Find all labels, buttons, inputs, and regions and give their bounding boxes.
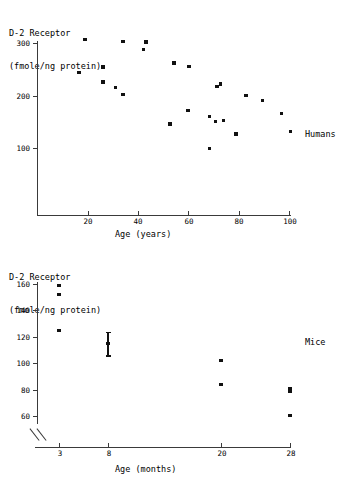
x-tick-60 [188, 211, 189, 215]
y-axis-title-line2: (fmole/ng protein) [9, 61, 101, 72]
group-label-mice: Mice [305, 337, 325, 347]
data-point [234, 132, 237, 135]
group-label-humans: Humans [305, 129, 336, 139]
x-tick-20 [88, 211, 89, 215]
data-point [77, 71, 80, 74]
data-point [101, 80, 104, 83]
y-axis-title-humans: D-2 Receptor (fmole/ng protein) [9, 6, 101, 94]
data-point [106, 342, 109, 345]
x-tick-100 [289, 211, 290, 215]
x-ticklabel-40: 40 [126, 217, 150, 226]
data-point [142, 48, 145, 51]
x-axis-line-mice [35, 447, 291, 448]
y-ticklabel-60: 60 [8, 412, 30, 421]
data-point [114, 86, 117, 89]
data-point [280, 112, 283, 115]
data-point [208, 147, 211, 150]
x-axis-title-humans: Age (years) [115, 229, 171, 239]
data-point [121, 40, 124, 43]
data-point [121, 93, 124, 96]
y-ticklabel-140: 140 [8, 306, 30, 315]
y-tick-300 [33, 43, 37, 44]
y-ticklabel-300: 300 [8, 39, 30, 48]
data-point [186, 109, 189, 112]
x-tick-20 [221, 443, 222, 447]
y-axis-line-mice [37, 282, 38, 424]
y-tick-100 [33, 148, 37, 149]
x-tick-40 [138, 211, 139, 215]
data-point [168, 122, 171, 125]
data-point [144, 40, 147, 43]
y-axis-line-humans [37, 41, 38, 216]
data-point [222, 119, 225, 122]
data-point [219, 383, 222, 386]
x-tick-3 [59, 443, 60, 447]
x-tick-28 [290, 443, 291, 447]
x-ticklabel-60: 60 [177, 217, 201, 226]
x-ticklabel-28: 28 [279, 449, 303, 458]
y-tick-200 [33, 96, 37, 97]
y-ticklabel-100: 100 [8, 144, 30, 153]
error-bar-cap-top [106, 332, 111, 333]
y-axis-title-line1: D-2 Receptor [9, 28, 101, 39]
data-point [57, 293, 60, 296]
y-tick-120 [33, 337, 37, 338]
y-tick-100 [33, 363, 37, 364]
data-point [219, 82, 222, 85]
x-ticklabel-3: 3 [48, 449, 72, 458]
data-point [244, 94, 247, 97]
x-ticklabel-8: 8 [97, 449, 121, 458]
data-point [101, 65, 104, 68]
y-tick-60 [33, 416, 37, 417]
error-bar-cap-bottom [106, 355, 111, 356]
data-point [57, 329, 60, 332]
data-point [187, 65, 190, 68]
x-ticklabel-80: 80 [227, 217, 251, 226]
y-tick-80 [33, 390, 37, 391]
y-tick-160 [33, 284, 37, 285]
x-ticklabel-20: 20 [76, 217, 100, 226]
y-ticklabel-80: 80 [8, 386, 30, 395]
data-point [288, 414, 291, 417]
x-ticklabel-100: 100 [278, 217, 302, 226]
x-tick-80 [239, 211, 240, 215]
y-ticklabel-200: 200 [8, 92, 30, 101]
data-point [172, 61, 175, 64]
y-tick-140 [33, 310, 37, 311]
figure-dopamine-receptor-vs-age: D-2 Receptor (fmole/ng protein) 300 200 … [0, 0, 351, 488]
data-point [219, 359, 222, 362]
data-point [208, 115, 211, 118]
x-tick-8 [108, 443, 109, 447]
x-axis-title-mice: Age (months) [115, 464, 176, 474]
x-ticklabel-20: 20 [210, 449, 234, 458]
data-point [83, 38, 86, 41]
data-point [289, 130, 292, 133]
y-axis-title-mice: D-2 Receptor (fmole/ng protein) [9, 250, 101, 338]
y-ticklabel-160: 160 [8, 280, 30, 289]
data-point [57, 284, 60, 287]
data-point [214, 120, 217, 123]
chart-panel-humans: D-2 Receptor (fmole/ng protein) 300 200 … [0, 0, 351, 244]
y-ticklabel-120: 120 [8, 333, 30, 342]
data-point [288, 389, 291, 392]
chart-panel-mice: D-2 Receptor (fmole/ng protein) 160 140 … [0, 244, 351, 488]
data-point [261, 99, 264, 102]
y-ticklabel-100: 100 [8, 359, 30, 368]
